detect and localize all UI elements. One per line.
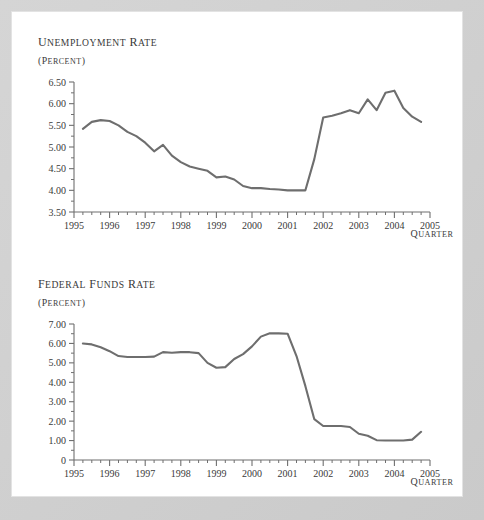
federal-funds-rate-plot: FEDERAL FUNDS RATE (PERCENT) 7.006.005.0… (12, 260, 462, 496)
svg-text:2000: 2000 (242, 468, 262, 479)
svg-text:1996: 1996 (100, 220, 120, 231)
svg-text:2004: 2004 (384, 468, 404, 479)
svg-text:5.50: 5.50 (49, 120, 67, 131)
svg-text:2002: 2002 (313, 220, 333, 231)
svg-text:1995: 1995 (64, 468, 84, 479)
chart-title-unemployment: UNEMPLOYMENT RATE (38, 35, 157, 49)
svg-text:4.50: 4.50 (49, 163, 67, 174)
chart-subtitle-fedfunds: (PERCENT) (38, 297, 85, 309)
svg-text:6.00: 6.00 (49, 98, 67, 109)
svg-text:2003: 2003 (349, 220, 369, 231)
svg-text:3.00: 3.00 (49, 396, 67, 407)
chart-federal-funds-rate: FEDERAL FUNDS RATE (PERCENT) 7.006.005.0… (12, 260, 462, 496)
x-axis-ticks-fedfunds: 1995199619971998199920002001200220032004… (64, 460, 440, 479)
svg-text:1998: 1998 (171, 468, 191, 479)
svg-text:1997: 1997 (135, 220, 155, 231)
chart-title-fedfunds: FEDERAL FUNDS RATE (38, 277, 155, 291)
svg-text:2001: 2001 (278, 220, 298, 231)
svg-text:4.00: 4.00 (49, 377, 67, 388)
svg-text:5.00: 5.00 (49, 357, 67, 368)
svg-text:1997: 1997 (135, 468, 155, 479)
series-line-unemployment (83, 91, 421, 191)
svg-text:2000: 2000 (242, 220, 262, 231)
chart-unemployment-rate: UNEMPLOYMENT RATE (PERCENT) 6.506.005.50… (12, 18, 462, 248)
svg-text:3.50: 3.50 (49, 207, 67, 218)
svg-text:6.50: 6.50 (49, 77, 67, 88)
svg-text:1.00: 1.00 (49, 435, 67, 446)
svg-text:1999: 1999 (206, 220, 226, 231)
y-axis-ticks-unemployment: 6.506.005.505.004.504.003.50 (49, 77, 75, 218)
svg-text:2004: 2004 (384, 220, 404, 231)
svg-text:2003: 2003 (349, 468, 369, 479)
svg-text:1999: 1999 (206, 468, 226, 479)
figure-outer-frame: UNEMPLOYMENT RATE (PERCENT) 6.506.005.50… (0, 0, 484, 520)
figure-page-sheet: UNEMPLOYMENT RATE (PERCENT) 6.506.005.50… (12, 12, 462, 496)
svg-text:2001: 2001 (278, 468, 298, 479)
series-line-fedfunds (83, 333, 421, 440)
x-axis-ticks-unemployment: 1995199619971998199920002001200220032004… (64, 212, 440, 231)
svg-text:1998: 1998 (171, 220, 191, 231)
y-axis-ticks-fedfunds: 7.006.005.004.003.002.001.000 (49, 319, 75, 466)
svg-text:7.00: 7.00 (49, 319, 67, 330)
x-axis-label-unemployment: QUARTER (411, 228, 454, 239)
unemployment-rate-plot: UNEMPLOYMENT RATE (PERCENT) 6.506.005.50… (12, 18, 462, 248)
svg-text:1995: 1995 (64, 220, 84, 231)
chart-subtitle-unemployment: (PERCENT) (38, 55, 85, 67)
svg-text:4.00: 4.00 (49, 185, 67, 196)
x-axis-label-fedfunds: QUARTER (411, 476, 454, 487)
svg-text:2002: 2002 (313, 468, 333, 479)
svg-text:6.00: 6.00 (49, 338, 67, 349)
svg-text:5.00: 5.00 (49, 142, 67, 153)
svg-text:1996: 1996 (100, 468, 120, 479)
svg-text:0: 0 (61, 455, 66, 466)
svg-text:2.00: 2.00 (49, 416, 67, 427)
